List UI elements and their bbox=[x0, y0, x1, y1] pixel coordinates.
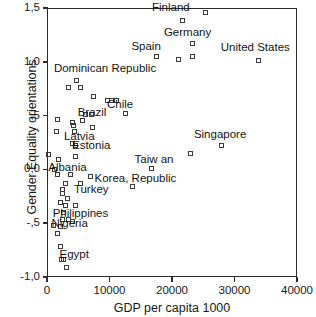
x-tick-label: 40000 bbox=[267, 284, 316, 296]
data-point-marker bbox=[190, 41, 195, 46]
data-point-marker bbox=[74, 78, 79, 83]
data-point-marker bbox=[63, 181, 68, 186]
x-tick-mark bbox=[109, 277, 111, 282]
x-tick-mark bbox=[171, 277, 173, 282]
data-point-label: Turkey bbox=[74, 184, 109, 195]
data-point-label: Germany bbox=[164, 27, 211, 38]
data-point-marker bbox=[91, 94, 96, 99]
data-point-label: Finland bbox=[152, 2, 190, 13]
data-point-marker bbox=[149, 166, 154, 171]
data-point-marker bbox=[55, 231, 60, 236]
y-tick-mark bbox=[43, 222, 48, 224]
x-tick-mark bbox=[296, 277, 298, 282]
data-point-marker bbox=[154, 54, 159, 59]
data-point-marker bbox=[71, 123, 76, 128]
data-point-marker bbox=[73, 154, 78, 159]
data-point-marker bbox=[190, 54, 195, 59]
y-tick-label: 0,0 bbox=[0, 162, 40, 174]
data-point-marker bbox=[188, 151, 193, 156]
data-point-marker bbox=[219, 143, 224, 148]
data-point-marker bbox=[58, 200, 63, 205]
data-point-marker bbox=[130, 184, 135, 189]
y-tick-mark bbox=[43, 61, 48, 63]
data-point-label: Egypt bbox=[60, 249, 89, 260]
data-point-marker bbox=[55, 117, 60, 122]
data-point-marker bbox=[203, 10, 208, 15]
y-tick-label: 1,5 bbox=[0, 1, 40, 13]
data-point-label: Chile bbox=[107, 99, 133, 110]
data-point-marker bbox=[256, 58, 261, 63]
x-tick-label: 10000 bbox=[80, 284, 140, 296]
data-point-marker bbox=[54, 129, 59, 134]
y-tick-mark bbox=[43, 169, 48, 171]
data-point-marker bbox=[46, 152, 51, 157]
data-point-marker bbox=[176, 57, 181, 62]
data-point-label: United States bbox=[221, 42, 290, 53]
y-tick-label: 1,0 bbox=[0, 55, 40, 67]
data-point-marker bbox=[180, 18, 185, 23]
data-point-marker bbox=[64, 265, 69, 270]
x-tick-mark bbox=[234, 277, 236, 282]
x-tick-label: 0 bbox=[17, 284, 77, 296]
y-tick-label: -1,0 bbox=[0, 270, 40, 282]
data-point-marker bbox=[123, 111, 128, 116]
data-point-label: Dominican Republic bbox=[54, 63, 156, 74]
y-tick-mark bbox=[43, 7, 48, 9]
y-tick-label: ,5 bbox=[0, 109, 40, 121]
data-point-marker bbox=[88, 174, 93, 179]
data-point-label: Taiw an bbox=[135, 154, 174, 165]
x-tick-label: 30000 bbox=[205, 284, 265, 296]
data-point-label: Estonia bbox=[72, 140, 110, 151]
scatter-chart: Gender Equality orientations 1,51,0,50,0… bbox=[0, 0, 316, 317]
data-point-label: Singapore bbox=[194, 129, 246, 140]
y-tick-label: -,5 bbox=[0, 216, 40, 228]
data-point-label: Spain bbox=[131, 41, 160, 52]
y-tick-mark bbox=[43, 115, 48, 117]
x-axis-title: GDP per capita 1000 bbox=[47, 301, 297, 315]
data-point-label: Brazil bbox=[78, 107, 107, 118]
data-point-marker bbox=[65, 196, 70, 201]
data-point-marker bbox=[80, 118, 85, 123]
data-point-marker bbox=[78, 85, 83, 90]
data-point-label: Nigeria bbox=[51, 218, 87, 229]
data-point-marker bbox=[66, 85, 71, 90]
x-tick-mark bbox=[46, 277, 48, 282]
data-point-marker bbox=[60, 191, 65, 196]
x-tick-label: 20000 bbox=[142, 284, 202, 296]
data-point-label: Albania bbox=[48, 162, 86, 173]
